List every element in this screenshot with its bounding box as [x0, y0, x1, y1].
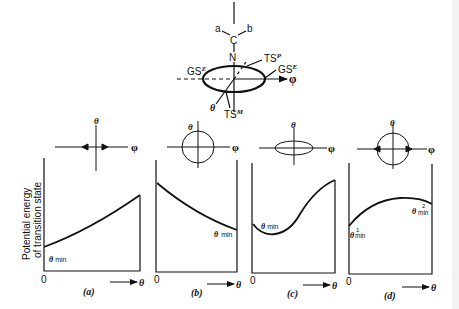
axes-a	[44, 158, 140, 271]
tsp-pointer	[247, 60, 262, 66]
curve-b	[157, 183, 237, 230]
min-label-b: θmin	[214, 230, 233, 239]
label-a: a	[215, 23, 221, 34]
axes-c	[252, 163, 335, 273]
label-phi: φ	[289, 72, 297, 86]
x-label-a: θ	[139, 277, 145, 288]
x-label-c: θ	[332, 280, 338, 291]
icon-c	[259, 128, 327, 165]
icon-a	[55, 125, 128, 171]
panel-a: θ φ θmin 0 θ (a)	[41, 116, 145, 298]
icon-b	[167, 121, 230, 168]
label-nitrogen: N	[229, 52, 236, 63]
page-edge-strip	[452, 0, 459, 309]
origin-d: 0	[346, 276, 352, 287]
y-label-line2: of transition state	[32, 181, 43, 258]
x-label-d: θ	[431, 282, 437, 293]
icon-phi-c: φ	[328, 142, 335, 154]
figure-svg: a b C N TSP GSE GSZ TSM φ θ Potential en…	[0, 0, 459, 309]
panel-c: θ φ θmin 0 θ (c)	[250, 120, 338, 300]
icon-theta-b: θ	[188, 122, 193, 132]
icon-phi-d: φ	[428, 143, 435, 155]
axes-d	[349, 163, 432, 274]
panel-d: θ φ θ 1 min θ 2 min 0 θ (d)	[346, 118, 437, 302]
icon-theta-a: θ	[94, 116, 99, 126]
theta-axis-dashed	[234, 62, 246, 79]
min-sub-d1: min	[355, 232, 366, 239]
figure-canvas: a b C N TSP GSE GSZ TSM φ θ Potential en…	[0, 0, 459, 309]
min-sub-d2: min	[418, 209, 429, 216]
label-tsp: TSP	[264, 52, 282, 64]
icon-phi-a: φ	[131, 141, 138, 153]
label-theta: θ	[210, 102, 216, 113]
bond-a	[222, 31, 230, 35]
origin-b: 0	[154, 274, 160, 285]
bond-b	[238, 31, 246, 35]
min-label-d2: θ	[412, 207, 417, 216]
min-label-a: θmin	[49, 255, 67, 264]
curve-c	[253, 180, 335, 234]
origin-c: 0	[250, 275, 256, 286]
x-label-b: θ	[236, 279, 242, 290]
label-carbon: C	[230, 35, 237, 46]
curve-a	[44, 195, 140, 247]
icon-d	[357, 124, 427, 169]
label-tsm: TSM	[224, 108, 244, 120]
label-b: b	[247, 23, 253, 34]
molecule-labels: a b C N TSP GSE GSZ TSM φ θ	[187, 23, 297, 120]
icon-phi-b: φ	[232, 141, 239, 153]
caption-b: (b)	[191, 287, 203, 299]
caption-c: (c)	[287, 288, 298, 300]
axes-b	[156, 160, 237, 272]
min-label-c: θmin	[261, 222, 279, 231]
caption-a: (a)	[83, 286, 95, 298]
y-label-line1: Potential energy	[21, 188, 32, 260]
panel-b: θ φ θmin 0 θ (b)	[154, 121, 242, 299]
origin-a: 0	[41, 274, 47, 285]
gse-pointer	[265, 70, 276, 78]
y-axis-label: Potential energy of transition state	[21, 181, 43, 260]
icon-theta-d: θ	[390, 118, 395, 128]
icon-theta-c: θ	[291, 120, 296, 130]
tsm-pointer	[226, 92, 230, 108]
caption-d: (d)	[384, 290, 396, 302]
